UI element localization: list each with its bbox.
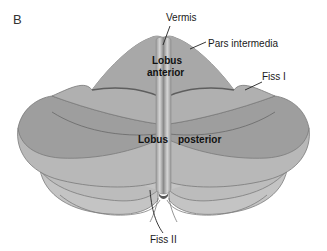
- lobus-posterior-label-word1: Lobus: [138, 134, 168, 145]
- pars-intermedia-label: Pars intermedia: [208, 38, 278, 49]
- vermis-label: Vermis: [166, 12, 197, 23]
- fiss-2-label: Fiss II: [150, 234, 177, 245]
- cerebellum-diagram: B Vermis Pars intermedia Fiss I Lobus an…: [0, 0, 327, 251]
- panel-label: B: [13, 14, 22, 25]
- pars-intermedia-leader: [190, 42, 206, 49]
- lobus-posterior-label-word2: posterior: [178, 134, 221, 145]
- fiss-1-label: Fiss I: [262, 71, 286, 82]
- lobus-anterior-label-line2: anterior: [147, 67, 184, 78]
- lobus-anterior-label-line1: Lobus: [152, 55, 182, 66]
